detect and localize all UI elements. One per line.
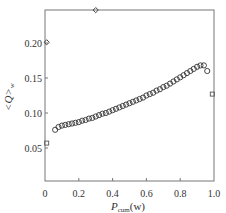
- data-point-circle: [93, 114, 98, 119]
- x-tick-label: 1.0: [208, 188, 221, 199]
- data-point-circle: [201, 63, 206, 68]
- y-axis-label-text: <Q>w: [2, 82, 16, 111]
- chart: 00.20.40.60.81.00.050.100.150.20 Pcum(w)…: [0, 0, 226, 213]
- y-tick-label: 0.15: [25, 73, 43, 84]
- y-tick-label: 0.20: [25, 38, 43, 49]
- y-tick-label: 0.05: [25, 143, 43, 154]
- data-point-circle: [103, 110, 108, 115]
- data-point-circle: [120, 103, 125, 108]
- x-axis-label-text: Pcum(w): [110, 200, 145, 213]
- x-tick-label: 0.6: [140, 188, 153, 199]
- data-point-circle: [113, 106, 118, 111]
- data-point-circle: [124, 102, 129, 107]
- data-point-circle: [205, 68, 210, 73]
- data-point-circle: [137, 96, 142, 101]
- data-point-circle: [90, 115, 95, 120]
- x-tick-label: 0.4: [106, 188, 119, 199]
- data-point-circle: [76, 120, 81, 125]
- axes-frame: [45, 10, 214, 181]
- data-point-circle: [117, 105, 122, 110]
- data-point-circle: [53, 127, 58, 132]
- data-point-circle: [83, 117, 88, 122]
- axis-ticks: 00.20.40.60.81.00.050.100.150.20: [25, 38, 221, 200]
- data-point-circle: [96, 113, 101, 118]
- data-point-circle: [127, 101, 132, 106]
- x-tick-label: 0: [43, 188, 48, 199]
- data-point-circle: [134, 98, 139, 103]
- data-point-circle: [147, 92, 152, 97]
- data-point-circle: [110, 108, 115, 113]
- data-point-circle: [56, 124, 61, 129]
- y-axis-label: <Q>w: [2, 82, 16, 111]
- plot-border: [45, 10, 214, 181]
- data-point-circle: [130, 99, 135, 104]
- y-tick-label: 0.10: [25, 108, 43, 119]
- x-tick-label: 0.2: [73, 188, 86, 199]
- data-points: [53, 63, 210, 133]
- x-axis-label: Pcum(w): [110, 200, 145, 213]
- data-point-circle: [107, 109, 112, 114]
- x-tick-label: 0.8: [174, 188, 187, 199]
